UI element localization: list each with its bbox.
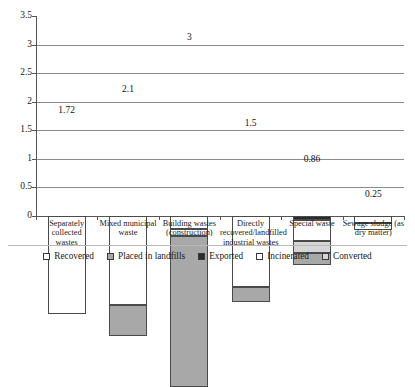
legend-label: Placed in landfills — [118, 252, 185, 261]
x-axis-category-label-line: waste — [97, 228, 158, 237]
bar-group: 0.25 — [343, 16, 404, 216]
bar-value-label: 1.72 — [58, 106, 75, 116]
bar-value-label: 3 — [187, 33, 192, 43]
bar-segment-placed-in-landfills[interactable] — [232, 287, 270, 301]
legend-label: Converted — [333, 252, 372, 261]
x-axis-category-label: Mixed municipalwaste — [97, 219, 158, 238]
stacked-bar[interactable] — [354, 202, 392, 216]
stacked-bar[interactable] — [109, 96, 147, 216]
chart-legend: RecoveredPlaced in landfillsExportedInci… — [0, 252, 415, 261]
y-axis-tick-label: 3 — [27, 40, 32, 50]
y-axis-tick-label: 3.5 — [20, 11, 32, 21]
legend-item-exported[interactable]: Exported — [198, 252, 243, 261]
x-axis-category-label-line: Sewage sludge (as — [343, 219, 404, 228]
x-axis-category-label-line: Directly — [220, 219, 281, 228]
x-axis-category-label-line: Building wastes — [159, 219, 220, 228]
bar-segment-placed-in-landfills[interactable] — [109, 305, 147, 336]
legend-item-incinerated[interactable]: Incinerated — [256, 252, 309, 261]
x-axis-category-label: Special waste — [281, 219, 342, 228]
bar-value-label: 0.25 — [365, 190, 382, 200]
x-axis-category-label-line: Separately collected — [36, 219, 97, 238]
bar-group: 1.72 — [36, 16, 97, 216]
pale-gray-swatch — [322, 253, 329, 260]
stacked-bar[interactable] — [232, 130, 270, 216]
bar-value-label: 2.1 — [122, 85, 134, 95]
y-axis-tick-label: 2 — [27, 97, 32, 107]
legend-label: Exported — [209, 252, 243, 261]
bar-value-label: 0.86 — [304, 155, 321, 165]
y-axis-tick-label: 1.5 — [20, 126, 32, 136]
y-axis-tick-label: 1 — [27, 154, 32, 164]
x-axis-category-label-line: (construction) — [159, 228, 220, 237]
x-axis-category-label-line: Mixed municipal — [97, 219, 158, 228]
legend-label: Incinerated — [267, 252, 309, 261]
bar-value-label: 1.5 — [245, 119, 257, 129]
x-axis-category-label-line: dry matter) — [343, 228, 404, 237]
x-axis-category-label: Directlyrecovered/landfilledindustrial w… — [220, 219, 281, 247]
legend-item-recovered[interactable]: Recovered — [43, 252, 94, 261]
x-axis-category-label: Building wastes(construction) — [159, 219, 220, 238]
bar-group: 2.1 — [97, 16, 158, 216]
stacked-bar[interactable] — [48, 118, 86, 216]
white-swatch — [256, 253, 263, 260]
legend-divider — [8, 245, 407, 246]
stacked-bar[interactable] — [293, 167, 331, 216]
y-axis-tick-label: 2.5 — [20, 68, 32, 78]
x-axis-category-label: Separately collectedwastes — [36, 219, 97, 247]
legend-item-placed-in-landfills[interactable]: Placed in landfills — [107, 252, 185, 261]
x-axis-category-label-line: Special waste — [281, 219, 342, 228]
black-swatch — [198, 253, 205, 260]
y-axis-tick-label: 0.5 — [20, 183, 32, 193]
legend-item-converted[interactable]: Converted — [322, 252, 372, 261]
bar-group: 0.86 — [281, 16, 342, 216]
light-gray-swatch — [107, 253, 114, 260]
stacked-bar[interactable] — [170, 45, 208, 216]
bar-group: 3 — [159, 16, 220, 216]
x-axis-category-label: Sewage sludge (asdry matter) — [343, 219, 404, 238]
legend-label: Recovered — [54, 252, 94, 261]
white-swatch — [43, 253, 50, 260]
bar-group: 1.5 — [220, 16, 281, 216]
bars-container: 1.722.131.50.860.25 — [36, 16, 404, 216]
y-axis-tick-label: 0 — [27, 211, 32, 221]
x-axis-category-label-line: recovered/landfilled — [220, 228, 281, 237]
x-tick — [404, 216, 405, 220]
